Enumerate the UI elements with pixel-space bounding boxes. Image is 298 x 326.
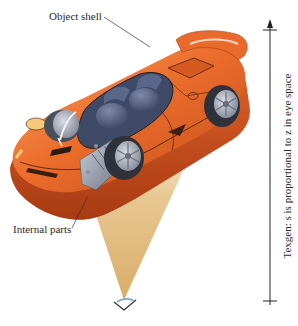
seat-left [96,103,128,129]
wheel-rear [204,85,240,127]
wheel-front [104,136,144,180]
axis-label: Texgen: s is proportional to z in eye sp… [282,74,293,259]
arrow-up-icon [267,19,273,28]
depth-axis [263,19,277,305]
label-internal-parts: Internal parts [13,224,71,235]
label-object-shell: Object shell [49,11,102,22]
leader-object-shell [104,17,150,47]
eye-icon [114,299,136,310]
texgen-figure: Object shell Internal parts Texgen: s is… [0,0,298,326]
figure-canvas [0,0,298,326]
headlight [26,118,46,130]
car-illustration [10,31,250,220]
seat-right [129,88,159,112]
